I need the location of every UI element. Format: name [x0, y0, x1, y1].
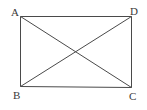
diagram-edges	[21, 17, 132, 88]
vertex-label-b: B	[13, 89, 20, 101]
vertex-label-c: C	[129, 90, 136, 102]
rectangle-diagram: A D B C	[0, 0, 147, 110]
vertex-label-a: A	[11, 6, 19, 18]
vertex-label-d: D	[130, 5, 138, 17]
side-cb	[21, 87, 132, 88]
